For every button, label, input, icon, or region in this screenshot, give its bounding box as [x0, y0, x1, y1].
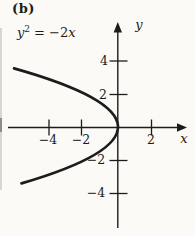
y-tick-label-minus4: −4 — [86, 185, 106, 201]
y-axis-label: y — [129, 17, 149, 33]
x-tick-label-minus2: −2 — [71, 132, 91, 148]
y-axis-arrowhead-icon — [114, 22, 122, 33]
figure-panel: (b) y2=−2x 4 2 −2 −4 −4 −2 2 y x — [0, 0, 195, 236]
y-tick-label-4: 4 — [94, 53, 114, 69]
y-tick-label-2: 2 — [93, 87, 113, 103]
x-axis-label: x — [174, 131, 194, 147]
x-tick-label-2: 2 — [141, 132, 161, 148]
x-tick-label-minus4: −4 — [38, 132, 58, 148]
y-tick-label-minus2: −2 — [86, 152, 106, 168]
